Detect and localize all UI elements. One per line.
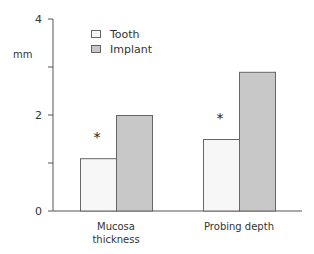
y-tick-label: 4 [35, 13, 42, 26]
legend-label-tooth: Tooth [109, 28, 140, 41]
significance-marker: * [94, 129, 101, 145]
bar-implant-probing-depth [240, 72, 276, 211]
category-label: Mucosa [97, 221, 135, 232]
y-tick-label: 0 [35, 205, 42, 218]
legend-swatch-tooth [92, 31, 101, 38]
category-label: Probing depth [204, 221, 274, 232]
legend-label-implant: Implant [110, 43, 153, 56]
y-tick-label: 2 [35, 109, 42, 122]
legend-swatch-implant [92, 46, 101, 53]
y-axis-label: mm [13, 49, 32, 60]
bar-tooth-mucosa-thickness [81, 159, 117, 211]
significance-marker: * [217, 110, 224, 126]
bar-tooth-probing-depth [204, 140, 240, 212]
bar-implant-mucosa-thickness [117, 116, 153, 212]
category-label: thickness [92, 234, 139, 245]
bar-chart: 024mm*Mucosathickness*Probing depthTooth… [0, 0, 314, 254]
